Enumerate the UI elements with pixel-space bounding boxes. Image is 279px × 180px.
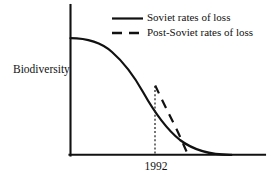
legend-label-post-soviet: Post-Soviet rates of loss xyxy=(147,27,253,38)
y-axis-label: Biodiversity xyxy=(13,64,70,76)
series-soviet-rates-of-loss xyxy=(71,38,232,155)
x-axis-tick-label-1992: 1992 xyxy=(140,161,172,173)
biodiversity-loss-chart: Biodiversity 1992 Soviet rates of loss P… xyxy=(0,0,279,180)
legend-label-soviet: Soviet rates of loss xyxy=(147,12,230,23)
